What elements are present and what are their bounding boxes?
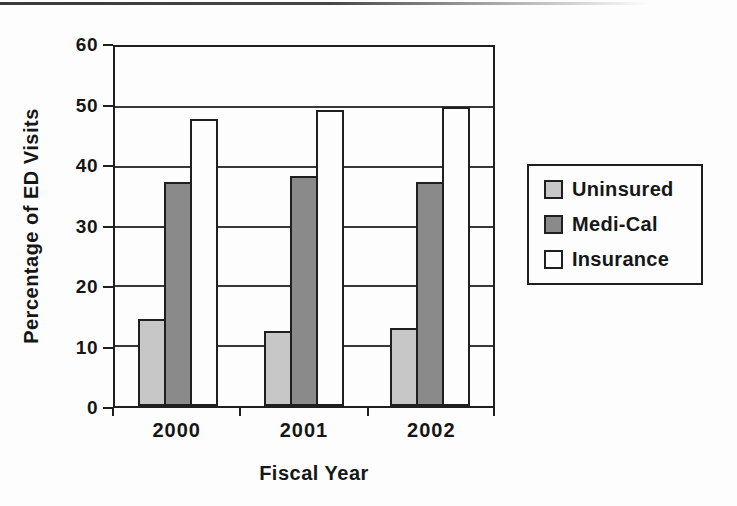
- scanned-chart-page: Percentage of ED Visits 0102030405060 20…: [0, 0, 737, 506]
- x-tick-mark-1: [239, 408, 241, 416]
- x-tick-mark-0: [112, 408, 114, 416]
- y-tick-mark-10: [103, 347, 113, 349]
- y-tick-mark-30: [103, 226, 113, 228]
- legend-label: Medi-Cal: [572, 213, 658, 236]
- y-tick-mark-50: [103, 105, 113, 107]
- legend-swatch-icon: [544, 250, 563, 269]
- y-tick-mark-20: [103, 286, 113, 288]
- bar-uninsured-2000: [138, 319, 166, 406]
- x-axis-title: Fiscal Year: [123, 462, 505, 485]
- x-axis-category-labels: 200020012002: [113, 419, 495, 442]
- x-category-label-2002: 2002: [368, 419, 495, 442]
- x-category-label-2001: 2001: [240, 419, 367, 442]
- legend-label: Uninsured: [572, 178, 674, 201]
- bar-uninsured-2001: [264, 331, 292, 406]
- legend-item-medi-cal: Medi-Cal: [544, 213, 701, 236]
- plot-area: [113, 45, 495, 408]
- bar-group-2002: [367, 47, 493, 406]
- bar-medi-cal-2000: [164, 182, 192, 406]
- y-tick-label-0: 0: [28, 397, 98, 419]
- legend-label: Insurance: [572, 248, 669, 271]
- legend: UninsuredMedi-CalInsurance: [527, 164, 703, 285]
- y-tick-label-40: 40: [28, 155, 98, 177]
- bar-insurance-2000: [190, 119, 218, 406]
- y-tick-label-30: 30: [28, 216, 98, 238]
- bar-uninsured-2002: [390, 328, 418, 406]
- y-tick-label-10: 10: [28, 337, 98, 359]
- legend-item-uninsured: Uninsured: [544, 178, 701, 201]
- bar-insurance-2001: [316, 110, 344, 406]
- y-tick-label-50: 50: [28, 95, 98, 117]
- y-tick-label-60: 60: [28, 34, 98, 56]
- legend-swatch-icon: [544, 215, 563, 234]
- bar-group-2001: [241, 47, 367, 406]
- y-tick-mark-60: [103, 44, 113, 46]
- x-tick-mark-3: [493, 408, 495, 416]
- bar-group-2000: [115, 47, 241, 406]
- y-tick-label-20: 20: [28, 276, 98, 298]
- legend-swatch-icon: [544, 180, 563, 199]
- bar-medi-cal-2001: [290, 176, 318, 406]
- bar-medi-cal-2002: [416, 182, 444, 406]
- y-tick-mark-40: [103, 165, 113, 167]
- bar-insurance-2002: [442, 107, 470, 406]
- x-category-label-2000: 2000: [113, 419, 240, 442]
- legend-item-insurance: Insurance: [544, 248, 701, 271]
- x-tick-mark-2: [367, 408, 369, 416]
- page-top-rule: [0, 2, 737, 5]
